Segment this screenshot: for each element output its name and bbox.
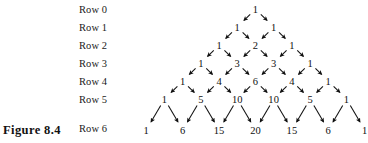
triangle-value-r6-c3: 20 [250,125,261,136]
arrow-r5c4-to-r6c5 [314,105,324,121]
triangle-value-r5-c1: 5 [198,94,203,105]
figure-pascals-triangle: Figure 8.4 Row 0Row 1Row 2Row 3Row 4Row … [0,0,368,143]
triangle-value-r6-c1: 6 [180,125,185,136]
arrow-r4c0-to-r5c1 [188,86,194,92]
row-label-4: Row 4 [79,76,107,87]
triangle-value-r5-c3: 10 [268,94,279,105]
arrow-r3c0-to-r4c1 [206,68,212,74]
arrow-r4c4-to-r5c5 [334,86,340,92]
arrow-r4c2-to-r5c3 [261,86,267,92]
arrow-r3c2-to-r4c3 [279,68,285,74]
arrow-r2c0-to-r3c1 [224,50,230,56]
triangle-value-r4-c2: 6 [253,76,258,87]
row-label-1: Row 1 [79,22,107,33]
row-label-3: Row 3 [79,58,107,69]
arrow-r4c3-to-r5c3 [280,86,286,92]
triangle-value-r6-c4: 15 [287,125,298,136]
arrow-r1c0-to-r2c0 [226,32,232,38]
arrow-r5c1-to-r6c1 [188,105,198,121]
arrow-r2c1-to-r3c1 [244,50,250,56]
arrow-r2c1-to-r3c2 [261,50,267,56]
row-label-2: Row 2 [79,40,107,51]
arrow-r4c4-to-r5c4 [317,86,323,92]
arrow-r4c2-to-r5c2 [244,86,250,92]
row-label-0: Row 0 [79,4,107,15]
arrow-layer [0,0,368,143]
triangle-value-r4-c4: 1 [326,76,331,87]
arrow-r3c3-to-r4c3 [299,68,305,74]
arrow-r5c5-to-r6c5 [333,105,343,121]
triangle-value-r6-c5: 6 [326,125,331,136]
triangle-value-r2-c1: 2 [253,40,258,51]
arrow-r3c0-to-r4c0 [189,68,195,74]
triangle-value-r6-c0: 1 [144,125,149,136]
arrow-r0c0-to-r1c0 [244,14,250,20]
arrow-r2c0-to-r3c0 [208,50,214,56]
arrow-r4c1-to-r5c1 [208,86,214,92]
arrow-r5c0-to-r6c0 [151,105,161,121]
figure-caption: Figure 8.4 [3,123,61,138]
triangle-value-r6-c6: 1 [362,125,367,136]
triangle-value-r1-c1: 1 [271,22,276,33]
arrow-r4c3-to-r5c4 [297,86,303,92]
arrow-r5c0-to-r6c1 [168,105,178,121]
arrow-r5c4-to-r6c4 [297,105,307,121]
triangle-value-r1-c0: 1 [235,22,240,33]
arrow-r3c2-to-r4c2 [262,68,268,74]
triangle-value-r4-c0: 1 [180,76,185,87]
arrow-r3c1-to-r4c2 [243,68,249,74]
row-label-5: Row 5 [79,94,107,105]
arrow-r4c0-to-r5c0 [171,86,177,92]
triangle-value-r2-c2: 1 [289,40,294,51]
triangle-value-r3-c1: 3 [235,58,240,69]
arrow-r5c1-to-r6c2 [205,105,215,121]
arrow-r3c3-to-r4c4 [315,68,321,74]
triangle-value-r2-c0: 1 [216,40,221,51]
triangle-value-r0-c0: 1 [253,4,258,15]
arrow-r5c3-to-r6c3 [260,105,270,121]
arrow-r5c3-to-r6c4 [278,105,288,121]
arrow-r1c1-to-r2c2 [279,32,285,38]
triangle-value-r5-c2: 10 [232,94,243,105]
triangle-value-r4-c3: 4 [289,76,294,87]
triangle-value-r5-c5: 1 [344,94,349,105]
arrow-r3c1-to-r4c1 [226,68,232,74]
row-label-6: Row 6 [79,123,107,134]
triangle-value-r3-c2: 3 [271,58,276,69]
triangle-value-r3-c0: 1 [198,58,203,69]
triangle-value-r4-c1: 4 [216,76,221,87]
arrow-r5c2-to-r6c3 [241,105,251,121]
arrow-r5c5-to-r6c6 [350,105,360,121]
arrow-r1c1-to-r2c1 [262,32,268,38]
triangle-value-r5-c0: 1 [162,94,167,105]
arrow-r2c2-to-r3c3 [297,50,303,56]
triangle-value-r3-c3: 1 [307,58,312,69]
arrow-r0c0-to-r1c1 [261,14,267,20]
arrow-r2c2-to-r3c2 [280,50,286,56]
arrow-r5c2-to-r6c2 [224,105,234,121]
triangle-value-r5-c4: 5 [307,94,312,105]
triangle-value-r6-c2: 15 [214,125,225,136]
arrow-r1c0-to-r2c1 [243,32,249,38]
arrow-r4c1-to-r5c2 [224,86,230,92]
